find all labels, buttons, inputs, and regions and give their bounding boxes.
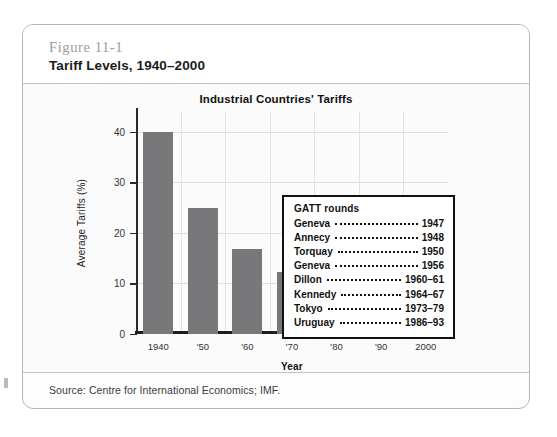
figure-card: Figure 11-1 Tariff Levels, 1940–2000 Ind…: [22, 24, 530, 409]
gatt-legend-row: Geneva1956: [294, 259, 444, 273]
gatt-legend-row: Geneva1947: [294, 217, 444, 231]
gatt-legend-row: Annecy1948: [294, 231, 444, 245]
x-tick-label: 2000: [415, 341, 436, 352]
gatt-round-name: Geneva: [294, 217, 330, 231]
x-tick-label: '50: [197, 341, 209, 352]
bar-group: '60: [225, 112, 270, 334]
y-axis-title: Average Tariffs (%): [76, 179, 87, 267]
gatt-round-name: Annecy: [294, 231, 330, 245]
gatt-legend-rows: Geneva1947Annecy1948Torquay1950Geneva195…: [294, 217, 444, 331]
gatt-round-year: 1964–67: [405, 288, 444, 302]
gatt-round-year: 1973–79: [405, 302, 444, 316]
gatt-round-year: 1956: [422, 259, 444, 273]
figure-number: Figure 11-1: [49, 38, 529, 56]
x-tick-label: '90: [375, 341, 387, 352]
source-note: Source: Centre for International Economi…: [49, 384, 529, 396]
dotted-leader: [335, 237, 418, 239]
bar: [188, 208, 218, 334]
page-edge-artifact: [4, 378, 8, 388]
dotted-leader: [341, 294, 401, 296]
chart-panel: Industrial Countries' Tariffs Average Ta…: [23, 84, 529, 372]
x-tick-label: '70: [286, 341, 298, 352]
y-tick-0: [130, 334, 137, 336]
gatt-legend-row: Uruguay1986–93: [294, 316, 444, 330]
gatt-legend-row: Torquay1950: [294, 245, 444, 259]
gatt-legend-row: Kennedy1964–67: [294, 288, 444, 302]
dotted-leader: [335, 223, 418, 225]
gatt-round-name: Torquay: [294, 245, 333, 259]
x-tick-label: '80: [330, 341, 342, 352]
gatt-round-name: Kennedy: [294, 288, 336, 302]
dotted-leader: [327, 279, 401, 281]
gatt-round-year: 1950: [422, 245, 444, 259]
x-tick-label: 1940: [148, 341, 169, 352]
bar-group: '50: [181, 112, 226, 334]
gatt-round-year: 1960–61: [405, 273, 444, 287]
gatt-legend-heading: GATT rounds: [294, 203, 444, 214]
y-tick-label-30: 30: [114, 177, 125, 188]
dotted-leader: [340, 322, 402, 324]
gatt-rounds-legend: GATT rounds Geneva1947Annecy1948Torquay1…: [282, 195, 455, 340]
gatt-round-name: Uruguay: [294, 316, 335, 330]
dotted-leader: [338, 251, 418, 253]
figure-footer: Source: Centre for International Economi…: [23, 373, 529, 396]
x-axis-title: Year: [136, 361, 448, 372]
chart-title: Industrial Countries' Tariffs: [23, 93, 529, 105]
figure-title: Tariff Levels, 1940–2000: [49, 57, 529, 75]
gatt-round-name: Tokyo: [294, 302, 323, 316]
y-tick-label-10: 10: [114, 278, 125, 289]
gatt-round-year: 1947: [422, 217, 444, 231]
bar: [143, 132, 173, 334]
gatt-round-year: 1948: [422, 231, 444, 245]
y-tick-label-40: 40: [114, 126, 125, 137]
figure-header: Figure 11-1 Tariff Levels, 1940–2000: [23, 25, 529, 83]
y-tick-label-0: 0: [119, 328, 125, 339]
gatt-legend-row: Dillon1960–61: [294, 273, 444, 287]
x-tick-label: '60: [241, 341, 253, 352]
gatt-round-year: 1986–93: [405, 316, 444, 330]
gatt-legend-row: Tokyo1973–79: [294, 302, 444, 316]
gatt-round-name: Dillon: [294, 273, 322, 287]
bar-group: 1940: [136, 112, 181, 334]
bar: [232, 249, 262, 333]
dotted-leader: [328, 308, 401, 310]
y-tick-label-20: 20: [114, 227, 125, 238]
gatt-round-name: Geneva: [294, 259, 330, 273]
dotted-leader: [335, 265, 418, 267]
